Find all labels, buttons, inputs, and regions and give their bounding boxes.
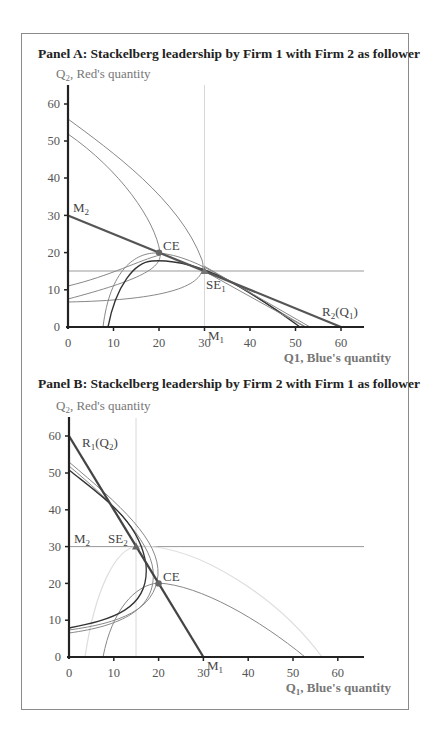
panel-b-ytick: 60: [49, 429, 62, 443]
panel-b-ytick: 30: [49, 540, 62, 554]
panel-b-xtick: 0: [66, 666, 72, 680]
panel-b-ytick: 0: [55, 650, 61, 664]
panel-b-xtick: 20: [152, 666, 165, 680]
panel-b-y-axis-label: Q2, Red's quantity: [56, 398, 151, 415]
panel-b-xtick: 10: [108, 666, 121, 680]
panel-b-ytick: 20: [49, 577, 62, 591]
panel-b-isoprofit-light: [85, 546, 322, 657]
panel-b-chart: Q2, Red's quantity 0 10 20 30 40 50 60 0…: [0, 0, 430, 736]
panel-b-ytick: 50: [49, 466, 62, 480]
panel-b-xtick: 40: [242, 666, 255, 680]
panel-b-label-se2: SE2: [108, 531, 128, 548]
panel-b-ytick: 40: [49, 503, 62, 517]
panel-b-label-r1: R1(Q2): [82, 435, 118, 452]
panel-b-label-ce: CE: [163, 569, 180, 584]
panel-b-xtick: 60: [332, 666, 345, 680]
panel-b-isoprofit-firm1-outer: [69, 466, 153, 633]
panel-b-isoprofit-firm2: [103, 583, 305, 657]
panel-b-label-m1: M1: [207, 658, 223, 675]
panel-b-xtick: 50: [287, 666, 300, 680]
panel-b-ytick: 10: [49, 613, 62, 627]
panel-b-ce-point: [155, 580, 161, 586]
panel-b-label-m2: M2: [74, 531, 90, 548]
panel-b-x-axis-label: Q1, Blue's quantity: [286, 680, 392, 697]
